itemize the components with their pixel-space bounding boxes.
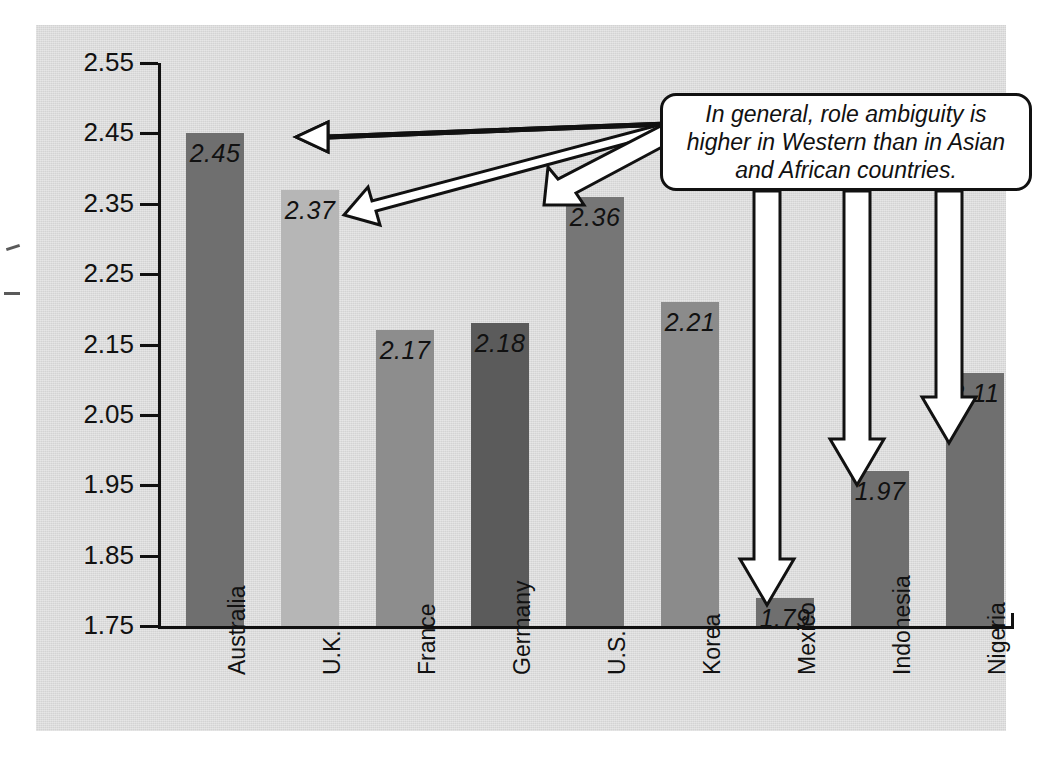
bar-us[interactable]: 2.36 [566,197,624,626]
x-axis-label-korea: Korea [699,614,726,675]
y-tick-label: 1.85 [8,540,134,571]
annotation-arrow-mexico [736,191,798,611]
x-axis-line [158,626,1014,629]
bar-value-label: 2.45 [186,139,244,168]
bar-value-label: 2.18 [471,329,529,358]
x-axis-label-uk: U.K. [319,630,346,675]
y-tick-mark [140,625,158,628]
y-tick-label: 2.35 [8,188,134,219]
y-tick-mark [140,484,158,487]
y-tick-mark [140,203,158,206]
bar-australia[interactable]: 2.45 [186,133,244,626]
page-edge-mark [6,244,20,251]
y-tick-mark [140,132,158,135]
callout-line-1: In general, role ambiguity is [705,101,986,127]
y-tick-label: 2.05 [8,399,134,430]
y-tick-mark [140,344,158,347]
bar-value-label: 2.21 [661,308,719,337]
x-axis-label-indonesia: Indonesia [889,575,916,675]
x-axis-right-cap [1011,613,1014,629]
chart-panel: Role Ambiguity 2.552.452.352.252.152.051… [36,25,1006,731]
annotation-callout: In general, role ambiguity is higher in … [660,93,1032,191]
bar-value-label: 2.17 [376,336,434,365]
bar-france[interactable]: 2.17 [376,330,434,626]
y-tick-label: 2.55 [8,47,134,78]
y-tick-mark [140,414,158,417]
x-axis-label-us: U.S. [604,630,631,675]
annotation-arrow-nigeria [918,191,980,449]
x-axis-label-australia: Australia [224,586,251,675]
annotation-arrow-indonesia [826,191,888,491]
y-tick-label: 2.45 [8,117,134,148]
x-axis-label-germany: Germany [509,580,536,675]
x-axis-label-france: France [414,603,441,675]
y-tick-mark [140,555,158,558]
y-tick-mark [140,62,158,65]
y-tick-label: 2.25 [8,258,134,289]
callout-line-3: and African countries. [735,157,957,183]
y-tick-label: 1.95 [8,469,134,500]
bar-uk[interactable]: 2.37 [281,190,339,626]
y-tick-label: 1.75 [8,610,134,641]
y-axis-line [158,63,161,629]
callout-line-2: higher in Western than in Asian [687,129,1005,155]
x-axis-label-mexico: Mexico [794,602,821,675]
y-tick-mark [140,273,158,276]
bar-korea[interactable]: 2.21 [661,302,719,626]
y-tick-label: 2.15 [8,329,134,360]
x-axis-label-nigeria: Nigeria [984,602,1011,675]
annotation-callout-text: In general, role ambiguity is higher in … [687,100,1005,184]
page-edge-mark [4,292,20,295]
chart-figure: Role Ambiguity 2.552.452.352.252.152.051… [0,0,1044,759]
